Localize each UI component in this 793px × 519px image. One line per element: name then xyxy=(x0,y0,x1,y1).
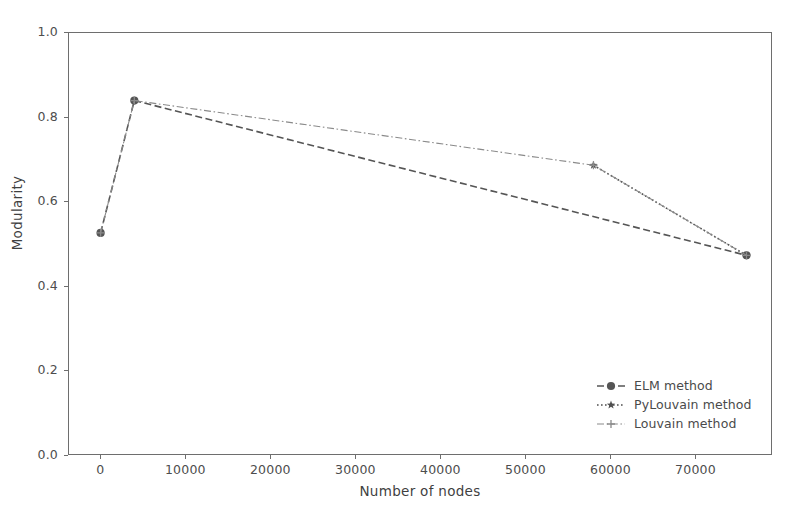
x-tick-label-wrap: 40000 xyxy=(400,462,480,477)
x-tick-label-wrap: 10000 xyxy=(145,462,225,477)
legend-label: PyLouvain method xyxy=(634,397,752,412)
x-axis-title: Number of nodes xyxy=(68,483,772,499)
x-tick-mark xyxy=(270,455,271,459)
y-tick-label: 1.0 xyxy=(18,24,58,39)
x-tick-label: 70000 xyxy=(655,462,735,477)
x-tick-label: 60000 xyxy=(570,462,650,477)
data-point-marker-circle xyxy=(607,381,615,389)
x-tick-label-wrap: 0 xyxy=(60,462,140,477)
y-tick-mark xyxy=(64,455,68,456)
x-tick-mark xyxy=(525,455,526,459)
y-axis-title: Modularity xyxy=(9,133,25,293)
data-point-marker-star xyxy=(607,400,615,408)
y-tick-label: 0.0 xyxy=(18,447,58,462)
x-tick-mark xyxy=(695,455,696,459)
legend-entry: Louvain method xyxy=(596,414,776,433)
x-tick-mark xyxy=(185,455,186,459)
x-tick-label-wrap: 30000 xyxy=(315,462,395,477)
y-tick-label-wrap: 1.0 xyxy=(12,24,58,40)
legend-marker-circle-icon xyxy=(596,379,626,393)
y-tick-label: 0.8 xyxy=(18,109,58,124)
x-tick-label-wrap: 50000 xyxy=(485,462,565,477)
x-tick-mark xyxy=(610,455,611,459)
legend-label: ELM method xyxy=(634,378,713,393)
x-tick-label: 40000 xyxy=(400,462,480,477)
x-tick-label-wrap: 70000 xyxy=(655,462,735,477)
y-tick-label-wrap: 0.8 xyxy=(12,109,58,125)
x-tick-mark xyxy=(440,455,441,459)
series-louvain-method xyxy=(97,97,751,260)
legend: ELM methodPyLouvain methodLouvain method xyxy=(596,376,776,433)
data-point-marker-plus xyxy=(589,161,597,169)
x-tick-label-wrap: 20000 xyxy=(230,462,310,477)
data-point-marker-plus xyxy=(607,420,615,428)
series-elm-method xyxy=(96,96,750,259)
x-tick-label: 20000 xyxy=(230,462,310,477)
legend-entry: ELM method xyxy=(596,376,776,395)
figure-canvas: 0.00.20.40.60.81.0 010000200003000040000… xyxy=(0,0,793,519)
x-tick-label: 30000 xyxy=(315,462,395,477)
legend-label: Louvain method xyxy=(634,416,736,431)
y-tick-label-wrap: 0.0 xyxy=(12,447,58,463)
series-line xyxy=(101,101,747,256)
x-tick-label: 50000 xyxy=(485,462,565,477)
legend-marker-plus-icon xyxy=(596,417,626,431)
y-tick-label-wrap: 0.2 xyxy=(12,362,58,378)
x-tick-label: 10000 xyxy=(145,462,225,477)
series-line xyxy=(101,101,747,256)
legend-entry: PyLouvain method xyxy=(596,395,776,414)
y-tick-label: 0.2 xyxy=(18,362,58,377)
legend-marker-star-icon xyxy=(596,398,626,412)
x-tick-mark xyxy=(355,455,356,459)
x-tick-mark xyxy=(100,455,101,459)
x-tick-label: 0 xyxy=(60,462,140,477)
x-tick-label-wrap: 60000 xyxy=(570,462,650,477)
